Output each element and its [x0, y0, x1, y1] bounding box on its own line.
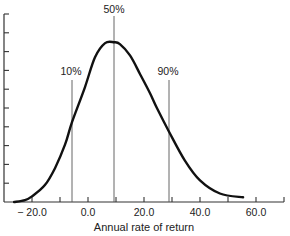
- distribution-curve: [14, 42, 243, 202]
- distribution-chart: − 20.00.020.040.060.0 Annual rate of ret…: [0, 0, 290, 236]
- x-axis-ticks: [32, 197, 284, 202]
- x-tick-label: − 20.0: [17, 206, 47, 218]
- y-axis: [4, 14, 9, 202]
- x-tick-label: 20.0: [134, 206, 155, 218]
- x-tick-label: 60.0: [246, 206, 267, 218]
- x-axis: − 20.00.020.040.060.0 Annual rate of ret…: [4, 197, 284, 233]
- x-axis-title: Annual rate of return: [94, 221, 194, 233]
- p50-label: 50%: [103, 3, 124, 15]
- p90-label: 90%: [157, 65, 178, 77]
- x-tick-label: 40.0: [190, 206, 211, 218]
- p10-label: 10%: [60, 65, 81, 77]
- y-axis-ticks: [4, 14, 9, 183]
- x-axis-tick-labels: − 20.00.020.040.060.0: [17, 206, 266, 218]
- x-tick-label: 0.0: [81, 206, 96, 218]
